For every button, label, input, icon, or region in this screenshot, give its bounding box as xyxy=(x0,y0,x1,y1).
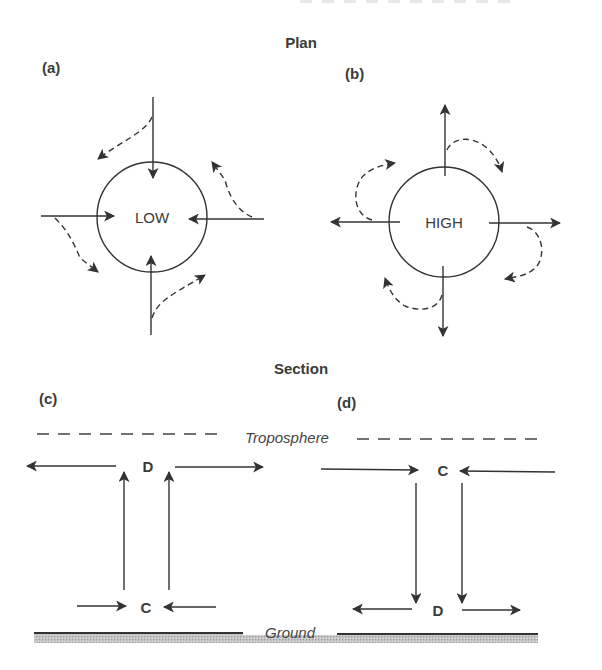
divergence-label-c: D xyxy=(143,459,154,474)
convergence-label-d: C xyxy=(438,463,449,478)
convergence-label-c: C xyxy=(141,600,152,615)
high-label: HIGH xyxy=(425,214,463,231)
deflection-arrow-south xyxy=(385,278,442,309)
deflection-arrow-east xyxy=(212,162,252,217)
diagram-canvas: LOW HIGH xyxy=(0,0,602,670)
ground-label: Ground xyxy=(265,625,315,640)
deflection-arrow-north xyxy=(447,139,502,172)
pressure-systems-figure: Plan Section (a) (b) (c) (d) xyxy=(0,0,602,670)
convergence-arrow-right xyxy=(460,471,555,472)
deflection-arrow-west xyxy=(55,218,98,272)
convergence-arrow-left xyxy=(321,469,418,470)
panel-c-section xyxy=(27,466,263,607)
divergence-label-d: D xyxy=(433,603,444,618)
deflection-arrow-west xyxy=(356,163,395,220)
deflection-arrow-south xyxy=(152,275,205,318)
troposphere-label: Troposphere xyxy=(245,430,329,445)
low-label: LOW xyxy=(135,209,170,226)
deflection-arrow-east xyxy=(505,227,542,279)
deflection-arrow-north xyxy=(98,117,152,159)
panel-d-section xyxy=(321,469,555,610)
